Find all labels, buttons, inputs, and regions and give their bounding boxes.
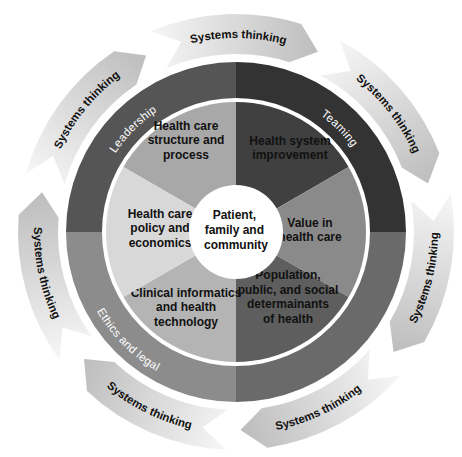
segment-label-improvement: Health systemimprovement bbox=[249, 134, 330, 163]
center-line-3: community bbox=[204, 238, 268, 252]
segment-label-policy: Health carepolicy andeconomics bbox=[128, 207, 193, 250]
segment-line: improvement bbox=[252, 148, 327, 162]
segment-line: Clinical informatics bbox=[131, 286, 242, 300]
segment-line: and health bbox=[156, 300, 216, 314]
center-hub: Patient, family and community bbox=[189, 185, 283, 279]
segment-line: Value in bbox=[287, 216, 332, 230]
segment-line: Health system bbox=[249, 134, 330, 148]
systems-thinking-arrow bbox=[151, 14, 318, 68]
segment-line: Population, bbox=[255, 268, 320, 282]
segment-line: structure and bbox=[148, 133, 225, 147]
center-label: Patient, family and community bbox=[204, 208, 268, 252]
segment-line: public, and social bbox=[238, 283, 339, 297]
segment-label-value: Value inhealth care bbox=[278, 216, 342, 245]
segment-line: economics bbox=[129, 236, 192, 250]
segment-line: determainants bbox=[247, 297, 329, 311]
center-line-2: family and bbox=[205, 223, 264, 237]
segment-line: Health care bbox=[154, 119, 219, 133]
competency-wheel-diagram: Systems thinkingSystems thinkingSystems … bbox=[0, 0, 462, 457]
segment-line: health care bbox=[278, 230, 342, 244]
segment-line: technology bbox=[154, 315, 218, 329]
segment-line: policy and bbox=[130, 221, 189, 235]
segment-line: Health care bbox=[128, 207, 193, 221]
segment-line: process bbox=[163, 148, 209, 162]
segment-line: of health bbox=[263, 312, 313, 326]
center-line-1: Patient, bbox=[213, 208, 256, 222]
